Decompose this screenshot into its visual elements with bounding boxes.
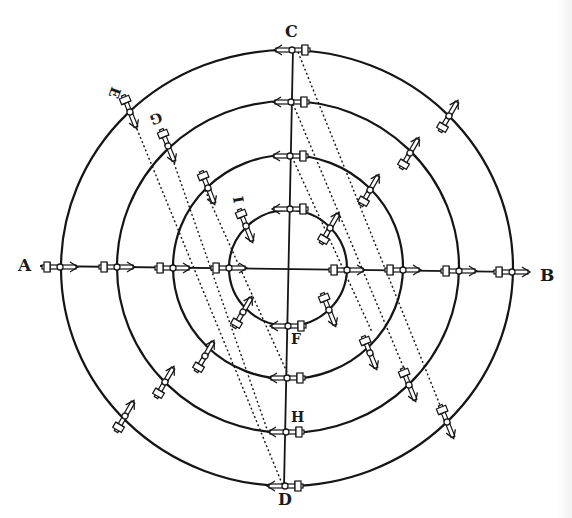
arrow-with-cross-icon [157,127,180,164]
arrow-with-cross-icon [197,169,220,206]
arrow-with-cross-icon [155,263,191,273]
label-i: I [230,195,247,204]
page-edge-shadow [558,0,572,518]
arrow-with-cross-icon [329,265,365,275]
arrow-with-cross-icon [269,373,305,383]
arrow-with-cross-icon [398,366,421,403]
arrow-with-cross-icon [272,204,308,214]
label-a: A [17,255,32,275]
arrow-with-cross-icon [436,98,463,134]
arrow-with-cross-icon [272,151,308,161]
arrow-with-cross-icon [436,403,459,440]
arrow-with-cross-icon [385,265,421,275]
arrow-with-cross-icon [270,321,306,331]
arrow-with-cross-icon [441,266,477,276]
dotted-line-mid [205,190,290,379]
label-g: G [148,109,165,128]
label-f: F [291,331,301,347]
arrow-with-cross-icon [318,291,341,328]
arrow-with-cross-icon [230,294,257,330]
arrow-with-cross-icon [397,135,424,171]
label-d: D [278,490,292,509]
label-h: H [291,409,304,425]
arrow-with-cross-icon [357,172,384,208]
diagram: A B C D E F G H I [0,0,572,518]
arrow-with-cross-icon [268,427,304,437]
dotted-line-g [168,146,268,432]
arrow-with-cross-icon [42,262,78,272]
label-b: B [540,265,554,285]
label-c: C [285,22,298,41]
arrow-with-cross-icon [152,364,179,400]
arrow-with-cross-icon [211,263,247,273]
dotted-line-e [130,112,283,486]
arrow-with-cross-icon [274,45,310,55]
arrow-with-cross-icon [235,207,258,244]
arrow-with-cross-icon [99,262,135,272]
label-e: E [106,85,125,101]
arrow-with-cross-icon [494,267,530,277]
arrow-with-cross-icon [273,97,309,107]
dotted-line-c2 [293,104,408,378]
